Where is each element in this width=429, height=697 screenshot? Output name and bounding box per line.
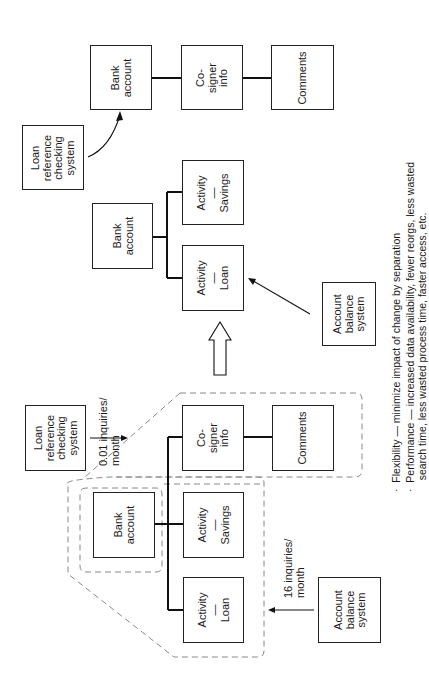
before-comments-box: Comments — [272, 405, 334, 471]
after-loan-bank-account-box: Bank account — [90, 45, 152, 110]
after-activity-loan-box: Activity — Loan — [182, 245, 244, 311]
balance-arrow — [250, 279, 310, 314]
transform-arrow-icon — [209, 322, 231, 375]
note-performance: · Performance — increased data availabil… — [404, 162, 428, 492]
before-account-balance-box: Account balance system — [318, 577, 381, 643]
note-flexibility: · Flexibility — minimize impact of chang… — [390, 233, 402, 492]
loan-ref-rate-label: 0.01 inquiries/ month — [97, 398, 121, 467]
balance-rate-label: 16 inquiries/ month — [282, 539, 306, 598]
after-cosigner-box: Co- signer info — [181, 45, 243, 110]
after-loan-ref-box: Loan reference checking system — [22, 125, 84, 190]
before-cosigner-box: Co- signer info — [182, 405, 244, 471]
curved-arrow — [88, 115, 120, 157]
after-activity-savings-box: Activity — Savings — [182, 160, 244, 225]
arrowhead-icon — [268, 607, 275, 613]
before-loan-ref-box: Loan reference checking system — [25, 405, 86, 471]
after-balance-bank-account-box: Bank account — [92, 203, 153, 269]
before-activity-savings-box: Activity — Savings — [183, 492, 244, 558]
before-bank-account-box: Bank account — [93, 492, 155, 558]
after-account-balance-box: Account balance system — [322, 282, 376, 346]
arrowhead-icon — [116, 111, 123, 121]
before-activity-loan-box: Activity — Loan — [183, 577, 244, 643]
after-comments-box: Comments — [271, 45, 334, 110]
